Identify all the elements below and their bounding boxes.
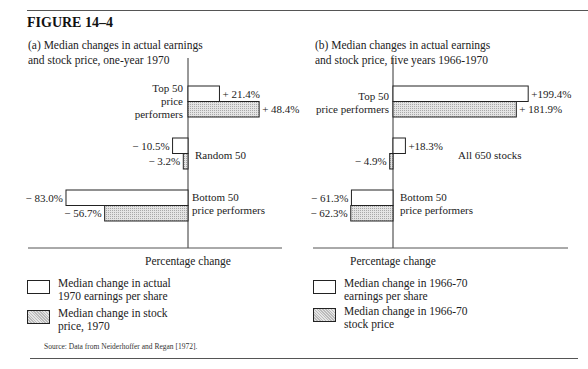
legend-item-stock-price: Median change in 1966-70 stock price <box>313 305 484 331</box>
data-label: − 62.3% <box>310 207 347 219</box>
legend-swatch-open <box>27 280 50 294</box>
legend-swatch-hatched <box>313 308 336 322</box>
legend-text-line: price, 1970 <box>58 320 198 333</box>
category-label: Top 50 <box>152 82 183 94</box>
legend-item-earnings: Median change in 1966-70 earnings per sh… <box>313 277 484 303</box>
earnings-bar <box>393 86 528 102</box>
category-label: price performers <box>316 103 389 115</box>
stock-price-bar <box>183 154 188 170</box>
stock-price-bar <box>351 206 393 222</box>
panel-b-xlabel: Percentage change <box>350 255 436 267</box>
legend-item-earnings: Median change in actual 1970 earnings pe… <box>27 277 198 303</box>
bottom-rule <box>30 358 578 359</box>
data-label: − 10.5% <box>132 140 169 152</box>
legend-text-line: 1970 earnings per share <box>58 290 198 303</box>
earnings-bar <box>393 138 405 154</box>
legend-text-line: stock price <box>344 318 484 331</box>
category-label: price performers <box>400 204 473 216</box>
category-label: Random 50 <box>195 149 247 161</box>
category-label: Bottom 50 <box>400 191 447 203</box>
data-label: + 181.9% <box>519 103 562 115</box>
earnings-bar <box>173 138 188 154</box>
category-label: Bottom 50 <box>192 191 239 203</box>
data-label: + 21.4% <box>222 88 259 100</box>
stock-price-bar <box>390 154 393 170</box>
earnings-bar <box>66 190 188 206</box>
category-label: price <box>161 95 183 107</box>
legend-text-line: Median change in actual <box>58 277 198 290</box>
category-label: All 650 stocks <box>458 149 522 161</box>
data-label: − 56.7% <box>64 207 101 219</box>
legend-text-line: Median change in 1966-70 <box>344 277 484 290</box>
category-label: performers <box>135 108 183 120</box>
data-label: +18.3% <box>408 140 443 152</box>
earnings-bar <box>351 190 393 206</box>
category-label: Top 50 <box>358 90 389 102</box>
earnings-bar <box>188 86 219 102</box>
data-label: − 4.9% <box>355 155 387 167</box>
data-label: + 48.4% <box>262 103 299 115</box>
legend-text-line: earnings per share <box>344 290 484 303</box>
stock-price-bar <box>393 102 516 118</box>
panel-a-xlabel: Percentage change <box>145 255 231 267</box>
legend-text-line: Median change in 1966-70 <box>344 305 484 318</box>
data-label: − 83.0% <box>26 192 63 204</box>
data-label: − 61.3% <box>311 192 348 204</box>
data-label: − 3.2% <box>148 155 180 167</box>
legend-item-stock-price: Median change in stock price, 1970 <box>27 307 198 333</box>
category-label: price performers <box>192 204 265 216</box>
stock-price-bar <box>105 206 188 222</box>
legend-swatch-open <box>313 280 336 294</box>
stock-price-bar <box>188 102 259 118</box>
legend-text-line: Median change in stock <box>58 307 198 320</box>
source-note: Source: Data from Neiderhoffer and Regan… <box>44 342 197 351</box>
legend-swatch-hatched <box>27 310 50 324</box>
data-label: +199.4% <box>531 88 571 100</box>
